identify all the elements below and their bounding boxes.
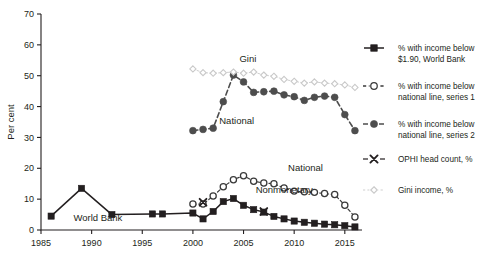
- data-point-marker: [332, 222, 338, 228]
- annotation-label: Gini: [239, 53, 256, 64]
- data-point-marker: [240, 78, 247, 85]
- data-point-marker: [220, 70, 226, 76]
- legend-label: Gini income, %: [398, 186, 453, 195]
- y-tick-label: 40: [24, 102, 34, 112]
- data-point-marker: [271, 213, 277, 219]
- data-point-marker: [281, 216, 287, 222]
- legend-label: % with income below: [398, 120, 475, 129]
- data-point-marker: [251, 69, 257, 75]
- data-point-marker: [370, 120, 377, 127]
- data-point-marker: [331, 94, 338, 101]
- legend-label: % with income below: [398, 44, 475, 53]
- x-tick-label: 2005: [234, 238, 254, 248]
- data-point-marker: [230, 177, 236, 183]
- data-point-marker: [190, 66, 196, 72]
- legend-label: national line, series 2: [398, 131, 475, 140]
- data-point-marker: [220, 98, 227, 105]
- data-point-marker: [352, 84, 358, 90]
- data-point-marker: [291, 78, 297, 84]
- data-point-marker: [370, 155, 377, 162]
- x-tick-label: 2010: [284, 238, 304, 248]
- data-point-marker: [342, 82, 348, 88]
- data-point-marker: [220, 184, 226, 190]
- data-point-marker: [281, 76, 287, 82]
- data-point-marker: [291, 218, 297, 224]
- data-point-marker: [210, 208, 216, 214]
- data-point-marker: [321, 221, 327, 227]
- data-point-marker: [159, 211, 165, 217]
- data-point-marker: [352, 127, 359, 134]
- data-point-marker: [342, 202, 348, 208]
- legend-item-wb[interactable]: % with income below$1.90, World Bank: [364, 44, 475, 64]
- data-point-marker: [281, 91, 288, 98]
- data-point-marker: [371, 45, 378, 52]
- legend-label: $1.90, World Bank: [398, 55, 466, 64]
- data-point-marker: [301, 80, 307, 86]
- legend-label: OPHI head count, %: [398, 155, 473, 164]
- data-point-marker: [311, 220, 317, 226]
- data-point-marker: [261, 72, 267, 78]
- legend-label: % with income below: [398, 82, 475, 91]
- y-axis-title: Per cent: [5, 104, 16, 140]
- data-point-marker: [240, 70, 246, 76]
- data-point-marker: [332, 81, 338, 87]
- annotation-label: World Bank: [73, 212, 122, 223]
- data-point-marker: [250, 89, 257, 96]
- data-point-marker: [271, 73, 277, 79]
- legend-item-ophi[interactable]: OPHI head count, %: [363, 155, 473, 164]
- legend-label: national line, series 1: [398, 93, 475, 102]
- data-point-marker: [321, 190, 327, 196]
- y-tick-label: 60: [24, 40, 34, 50]
- data-point-marker: [342, 223, 348, 229]
- data-point-marker: [210, 70, 216, 76]
- data-point-marker: [220, 199, 226, 205]
- y-tick-label: 70: [24, 9, 34, 19]
- y-tick-label: 20: [24, 163, 34, 173]
- data-point-marker: [291, 93, 298, 100]
- data-point-marker: [210, 193, 216, 199]
- y-tick-label: 50: [24, 71, 34, 81]
- data-point-marker: [190, 210, 196, 216]
- x-tick-label: 1995: [132, 238, 152, 248]
- annotation-label: Nonmonetary: [256, 184, 313, 195]
- data-point-marker: [200, 70, 206, 76]
- data-point-marker: [251, 207, 257, 213]
- data-point-marker: [371, 83, 378, 90]
- legend-item-nat2[interactable]: % with income belownational line, series…: [363, 120, 475, 140]
- data-point-marker: [332, 191, 338, 197]
- data-point-marker: [321, 80, 327, 86]
- data-point-marker: [149, 211, 155, 217]
- data-point-marker: [210, 125, 217, 132]
- poverty-trends-line-chart: 0102030405060701985199019952000200520102…: [0, 0, 492, 268]
- legend-item-gini[interactable]: Gini income, %: [363, 186, 453, 195]
- data-point-marker: [271, 88, 278, 95]
- chart-container: 0102030405060701985199019952000200520102…: [0, 0, 492, 268]
- data-point-marker: [240, 202, 246, 208]
- data-point-marker: [200, 216, 206, 222]
- data-point-marker: [260, 88, 267, 95]
- legend-item-nat1[interactable]: % with income belownational line, series…: [363, 82, 475, 102]
- x-tick-label: 1985: [31, 238, 51, 248]
- series-gini: [190, 66, 358, 91]
- data-point-marker: [200, 126, 207, 133]
- data-point-marker: [78, 185, 84, 191]
- data-point-marker: [301, 97, 308, 104]
- y-tick-label: 10: [24, 194, 34, 204]
- data-point-marker: [190, 127, 197, 134]
- y-tick-label: 0: [29, 225, 34, 235]
- data-point-marker: [311, 79, 317, 85]
- annotation-label: National: [288, 162, 323, 173]
- axes: [41, 14, 362, 230]
- data-point-marker: [48, 213, 54, 219]
- data-point-marker: [190, 201, 196, 207]
- data-point-marker: [311, 94, 318, 101]
- series-nat2: [190, 72, 359, 134]
- x-tick-label: 1990: [82, 238, 102, 248]
- data-point-marker: [352, 224, 358, 230]
- annotation-label: National: [219, 115, 254, 126]
- x-tick-label: 2000: [183, 238, 203, 248]
- x-axis-ticks: 1985199019952000200520102015: [31, 230, 355, 248]
- data-point-marker: [301, 219, 307, 225]
- chart-legend: % with income below$1.90, World Bank% wi…: [363, 44, 475, 195]
- x-tick-label: 2015: [335, 238, 355, 248]
